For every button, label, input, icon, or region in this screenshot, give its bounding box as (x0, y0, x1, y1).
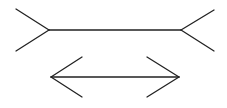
bottom-left-arrowhead-upper (51, 57, 82, 77)
top-left-fin-upper (16, 9, 49, 30)
top-left-fin-lower (16, 30, 49, 51)
bottom-figure (51, 57, 179, 97)
bottom-right-arrowhead-upper (147, 57, 179, 77)
top-right-fin-upper (181, 10, 214, 30)
bottom-left-arrowhead-lower (51, 77, 82, 97)
top-right-fin-lower (181, 30, 214, 51)
bottom-right-arrowhead-lower (147, 77, 179, 97)
muller-lyer-diagram (0, 0, 227, 108)
top-figure (16, 9, 214, 51)
